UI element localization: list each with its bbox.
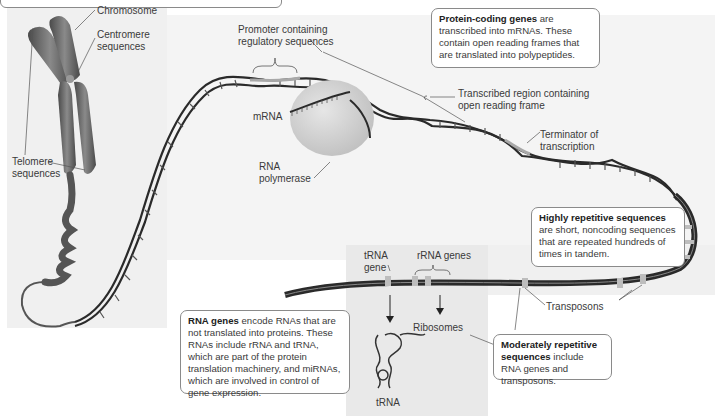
- rna-genes-callout: RNA genes encode RNAs that are not trans…: [180, 310, 350, 394]
- rna-genes-text: encode RNAs that are not translated into…: [188, 315, 340, 398]
- ribosomes-label: Ribosomes: [413, 322, 463, 334]
- terminator-label: Terminator of transcription: [540, 129, 598, 153]
- promoter-label: Promoter containing regulatory sequences: [238, 24, 334, 48]
- centromere-label: Centromere sequences: [97, 29, 150, 53]
- telomere-label: Telomere sequences: [12, 156, 60, 180]
- protein-coding-title: Protein-coding genes: [439, 13, 537, 24]
- rna-polymerase-label: RNA polymerase: [259, 161, 311, 185]
- moderately-repetitive-callout: Moderately repetitive sequences include …: [493, 334, 612, 380]
- rrna-genes-label: rRNA genes: [417, 250, 471, 262]
- highly-repetitive-callout: Highly repetitive sequences are short, n…: [531, 207, 685, 267]
- rna-genes-title: RNA genes: [188, 315, 239, 326]
- transposon-band: [617, 278, 623, 288]
- chromosome-label: Chromosome: [97, 5, 157, 17]
- transposon-band: [522, 278, 528, 288]
- trna-label: tRNA: [376, 397, 400, 409]
- rrna-gene-band: [412, 276, 418, 286]
- transcribed-region-label: Transcribed region containing open readi…: [458, 88, 589, 112]
- trna-molecule-icon: [376, 333, 425, 388]
- dna-double-helix: [75, 77, 677, 326]
- protein-coding-callout: Protein-coding genes are transcribed int…: [431, 8, 600, 68]
- rna-polymerase-icon: [290, 80, 374, 156]
- highly-repetitive-title: Highly repetitive sequences: [539, 212, 666, 223]
- trna-gene-band: [385, 276, 391, 286]
- transposon-band: [640, 274, 646, 284]
- trna-gene-label: tRNA gene: [364, 250, 388, 274]
- highly-repetitive-text: are short, noncoding sequences that are …: [539, 224, 676, 259]
- transposons-label: Transposons: [546, 301, 603, 313]
- mrna-label: mRNA: [253, 111, 282, 123]
